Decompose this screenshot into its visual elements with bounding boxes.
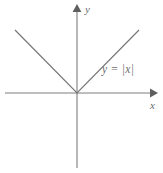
curve-equation-label: y = |x| — [102, 64, 134, 76]
absolute-value-graph-figure: y x y = |x| — [0, 0, 163, 173]
x-axis-label: x — [150, 100, 155, 111]
y-axis-label: y — [85, 4, 90, 15]
x-axis-arrow-icon — [150, 89, 158, 98]
y-axis-arrow-icon — [73, 4, 82, 12]
coordinate-plane-svg — [0, 0, 163, 173]
